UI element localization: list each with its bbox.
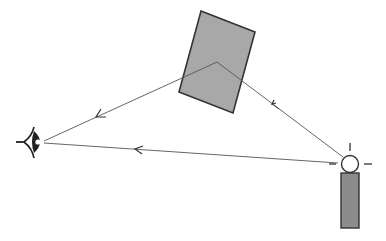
light-bulb-icon xyxy=(342,156,359,173)
ray-incident xyxy=(217,62,343,157)
eye-icon xyxy=(16,127,41,158)
light-source xyxy=(329,143,372,228)
arrow-head-icon xyxy=(272,100,276,104)
diagram-svg xyxy=(0,0,386,241)
ray-direct xyxy=(44,143,338,163)
lamp-post xyxy=(341,173,359,228)
ray-reflected xyxy=(44,62,217,141)
